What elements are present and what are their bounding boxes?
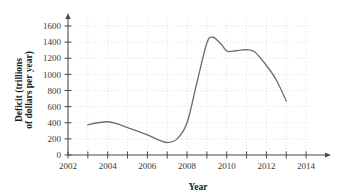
y-tick-label: 0 bbox=[57, 150, 62, 160]
x-tick-label: 2012 bbox=[257, 161, 275, 171]
chart-canvas: 02004006008001000120014001600 2002200420… bbox=[0, 0, 337, 196]
y-tick-label: 600 bbox=[48, 102, 62, 112]
y-tick-label: 1200 bbox=[43, 53, 62, 63]
y-tick-label: 800 bbox=[48, 86, 62, 96]
y-axis-title-line-2: of dollars per year) bbox=[24, 51, 35, 129]
x-tick-label: 2002 bbox=[59, 161, 77, 171]
x-tick-label: 2010 bbox=[218, 161, 237, 171]
x-tick-label: 2008 bbox=[178, 161, 197, 171]
x-tick-label: 2014 bbox=[297, 161, 316, 171]
x-tick-labels-group: 2002200420062008201020122014 bbox=[59, 161, 316, 171]
y-tick-label: 1000 bbox=[43, 70, 62, 80]
x-axis-title: Year bbox=[189, 182, 209, 192]
y-tick-label: 1600 bbox=[43, 21, 62, 31]
y-axis-arrow bbox=[65, 13, 70, 19]
y-tick-label: 1400 bbox=[43, 37, 62, 47]
y-axis-title: Deficit (trillions of dollars per year) bbox=[14, 51, 35, 129]
deficit-line-chart-figure: 02004006008001000120014001600 2002200420… bbox=[0, 0, 337, 196]
y-tick-label: 400 bbox=[48, 118, 62, 128]
axes-group bbox=[65, 13, 331, 158]
y-tick-labels-group: 02004006008001000120014001600 bbox=[43, 21, 62, 160]
x-axis-arrow bbox=[325, 152, 331, 157]
gridlines-group bbox=[68, 18, 310, 155]
x-tick-label: 2004 bbox=[99, 161, 118, 171]
y-tick-label: 200 bbox=[48, 134, 62, 144]
x-tick-label: 2006 bbox=[138, 161, 157, 171]
